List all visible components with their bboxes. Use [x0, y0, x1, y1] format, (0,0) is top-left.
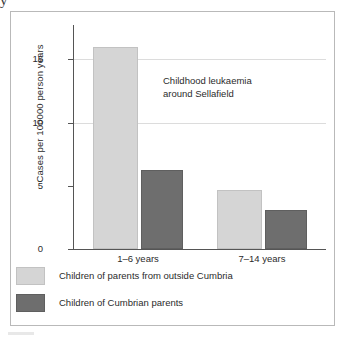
x-axis-line [73, 249, 326, 250]
category-label-7-14-years: 7–14 years [212, 253, 312, 264]
tick-label-5: 5 [38, 181, 43, 191]
tick-mark-0 [68, 249, 73, 250]
tick-label-15: 15 [32, 54, 43, 64]
legend-swatch-outside-cumbria [16, 267, 45, 285]
legend-item-cumbrian-parents: Children of Cumbrian parents [16, 294, 331, 321]
bar-cumbrian-1-6-years [141, 170, 183, 249]
chart-annotation-line2: around Sellafield [163, 87, 252, 100]
legend-item-outside-cumbria: Children of parents from outside Cumbria [16, 267, 331, 294]
tick-label-10: 10 [32, 118, 43, 128]
y-axis-title: Cases per 100000 person years [34, 24, 45, 204]
legend-label-outside-cumbria: Children of parents from outside Cumbria [59, 270, 233, 281]
chart-annotation: Childhood leukaemia around Sellafield [163, 74, 252, 100]
page-bleed-glyph-top: y [0, 0, 8, 8]
tick-label-0: 0 [38, 244, 43, 254]
plot-area: Cases per 100000 person years 15 10 5 0 … [11, 12, 336, 252]
tick-mark-15 [68, 59, 73, 60]
figure-frame: Cases per 100000 person years 15 10 5 0 … [10, 11, 335, 326]
category-label-1-6-years: 1–6 years [88, 253, 188, 264]
bar-cumbrian-7-14-years [265, 210, 307, 249]
chart-legend: Children of parents from outside Cumbria… [16, 267, 331, 321]
chart-annotation-line1: Childhood leukaemia [163, 74, 252, 87]
legend-swatch-cumbrian-parents [16, 294, 45, 312]
bar-outside-cumbria-7-14-years [217, 190, 262, 249]
page-bleed-mark-bottom [8, 332, 34, 335]
legend-label-cumbrian-parents: Children of Cumbrian parents [59, 297, 183, 308]
tick-mark-5 [68, 186, 73, 187]
tick-mark-10 [68, 123, 73, 124]
bar-outside-cumbria-1-6-years [93, 47, 138, 249]
